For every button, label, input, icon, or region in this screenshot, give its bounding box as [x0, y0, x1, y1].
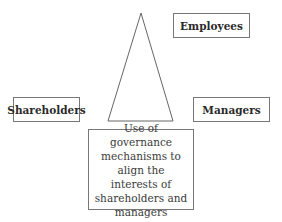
governance-description: Use of governance mechanisms to align th… [89, 119, 193, 221]
shareholders-label: Shareholders [7, 104, 85, 116]
shareholders-box: Shareholders [13, 97, 80, 122]
governance-description-box: Use of governance mechanisms to align th… [88, 129, 194, 210]
employees-label: Employees [180, 20, 243, 32]
managers-label: Managers [202, 104, 260, 116]
employees-box: Employees [173, 13, 250, 38]
managers-box: Managers [193, 97, 270, 122]
